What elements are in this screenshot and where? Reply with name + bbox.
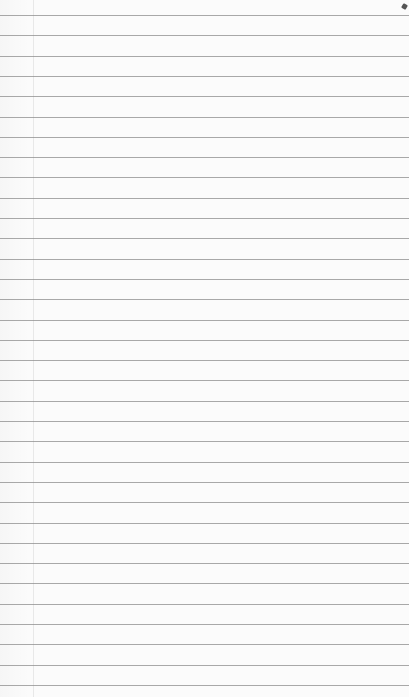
ruled-line — [0, 604, 409, 605]
lined-paper — [0, 0, 409, 697]
ruled-line — [0, 624, 409, 625]
ruled-line — [0, 198, 409, 199]
margin-line — [33, 0, 34, 697]
ruled-line — [0, 137, 409, 138]
ruled-line — [0, 583, 409, 584]
ruled-line — [0, 340, 409, 341]
ruled-line — [0, 96, 409, 97]
ruled-line — [0, 644, 409, 645]
ruled-line — [0, 279, 409, 280]
ruled-line — [0, 380, 409, 381]
ruled-line — [0, 563, 409, 564]
ruled-line — [0, 482, 409, 483]
ruled-line — [0, 35, 409, 36]
ruled-line — [0, 685, 409, 686]
ruled-line — [0, 502, 409, 503]
ruled-line — [0, 462, 409, 463]
ruled-line — [0, 218, 409, 219]
ruled-line — [0, 523, 409, 524]
ruled-line — [0, 238, 409, 239]
ruled-line — [0, 401, 409, 402]
ruled-line — [0, 76, 409, 77]
ruled-line — [0, 421, 409, 422]
ruled-line — [0, 15, 409, 16]
ruled-line — [0, 543, 409, 544]
ruled-line — [0, 177, 409, 178]
ruled-line — [0, 259, 409, 260]
ruled-line — [0, 360, 409, 361]
ruled-line — [0, 117, 409, 118]
ruled-line — [0, 320, 409, 321]
ruled-line — [0, 441, 409, 442]
ruled-line — [0, 157, 409, 158]
ruled-line — [0, 665, 409, 666]
ruled-line — [0, 56, 409, 57]
corner-mark — [401, 3, 408, 10]
ruled-line — [0, 299, 409, 300]
